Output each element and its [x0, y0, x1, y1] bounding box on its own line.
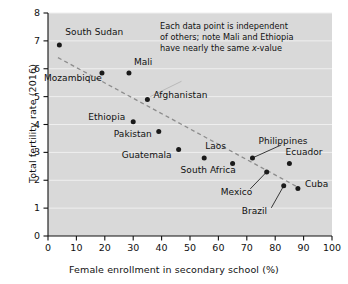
x-tick-label: 100 [320, 242, 344, 253]
x-tick-label: 40 [150, 242, 174, 253]
point-label: Guatemala [122, 150, 172, 160]
point-label: South Africa [181, 165, 236, 175]
x-tick-label: 50 [178, 242, 202, 253]
x-tick-label: 90 [292, 242, 316, 253]
point-label: Cuba [305, 179, 328, 189]
point-label: Ecuador [285, 147, 322, 157]
data-point [202, 155, 207, 160]
point-label: Mali [134, 57, 152, 67]
data-point [156, 129, 161, 134]
y-tick-label: 0 [24, 230, 40, 241]
x-tick-label: 20 [93, 242, 117, 253]
data-point [295, 186, 300, 191]
data-point [145, 97, 150, 102]
data-point [264, 169, 269, 174]
data-point [250, 155, 255, 160]
x-tick-label: 0 [36, 242, 60, 253]
x-tick-label: 80 [263, 242, 287, 253]
annotation-line: have nearly the same x-value [160, 43, 310, 54]
y-axis-title: Total fertility rate (2016) [27, 24, 38, 224]
annotation-note: Each data point is independentof others;… [160, 21, 310, 53]
point-label: Mexico [221, 187, 253, 197]
data-point [131, 119, 136, 124]
x-tick-label: 30 [121, 242, 145, 253]
point-label: Pakistan [114, 129, 152, 139]
point-label: Brazil [242, 206, 267, 216]
data-point [287, 161, 292, 166]
data-point [281, 183, 286, 188]
point-label: Laos [205, 141, 226, 151]
point-label: South Sudan [65, 27, 123, 37]
scatter-plot-figure: South SudanMozambiqueMaliAfghanistanEthi… [0, 0, 348, 284]
annotation-italic-token: x [252, 43, 257, 53]
x-axis-title: Female enrollment in secondary school (%… [0, 264, 348, 275]
point-label: Afghanistan [153, 90, 207, 100]
x-tick-label: 70 [235, 242, 259, 253]
data-point [57, 43, 62, 48]
data-point [176, 147, 181, 152]
point-label: Mozambique [44, 73, 102, 83]
point-label: Ethiopia [88, 112, 125, 122]
point-label: Philippines [258, 136, 307, 146]
x-tick-label: 60 [206, 242, 230, 253]
annotation-line: Each data point is independent [160, 21, 310, 32]
data-point [126, 70, 131, 75]
x-tick-label: 10 [64, 242, 88, 253]
annotation-line: of others; note Mali and Ethiopia [160, 32, 310, 43]
y-tick-label: 8 [24, 7, 40, 18]
